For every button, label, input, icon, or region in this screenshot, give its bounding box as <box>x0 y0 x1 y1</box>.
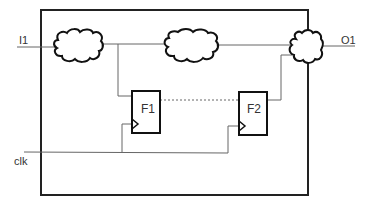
flipflop-label-f2: F2 <box>247 103 261 115</box>
input-label-i1: I1 <box>19 35 28 46</box>
wire-clk-f2 <box>228 126 239 153</box>
output-label-o1: O1 <box>341 35 356 46</box>
flipflop-label-f1: F1 <box>141 103 155 115</box>
wire-f2-cloud3 <box>267 55 292 100</box>
logic-cloud-3 <box>290 30 323 63</box>
logic-cloud-2 <box>165 29 219 62</box>
wire-cloud1-f1 <box>118 44 132 96</box>
input-label-clk: clk <box>14 156 27 167</box>
wire-clk <box>24 152 228 153</box>
logic-cloud-1 <box>54 29 103 62</box>
circuit-diagram <box>0 0 369 206</box>
wire-clk-f1 <box>122 124 132 152</box>
